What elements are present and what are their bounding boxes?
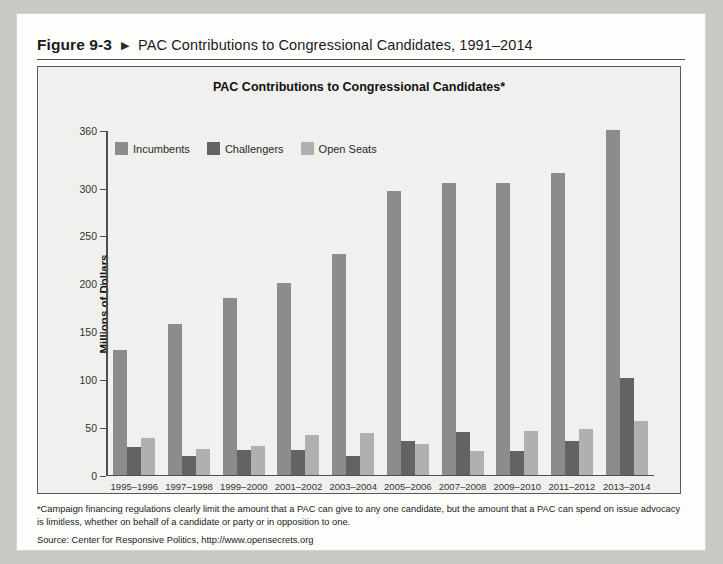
- bar-incumbents[interactable]: [496, 183, 510, 475]
- bar-group: 1995–1996: [107, 131, 162, 475]
- bar-challengers[interactable]: [127, 447, 141, 475]
- bar-group: 2001–2002: [271, 131, 326, 475]
- bar-challengers[interactable]: [237, 450, 251, 475]
- bar-incumbents[interactable]: [277, 283, 291, 475]
- bar-challengers[interactable]: [565, 441, 579, 475]
- header-divider: [37, 59, 685, 60]
- y-tick-label: 200: [79, 278, 97, 290]
- x-tick-label: 2003–2004: [329, 481, 377, 492]
- bar-incumbents[interactable]: [606, 130, 620, 475]
- y-tick-label: 250: [79, 230, 97, 242]
- figure-notes: *Campaign financing regulations clearly …: [37, 503, 687, 545]
- triangle-right-icon: ▶: [121, 40, 129, 51]
- bar-incumbents[interactable]: [223, 298, 237, 475]
- x-tick-label: 2007–2008: [439, 481, 487, 492]
- y-tick-mark: [100, 476, 106, 477]
- bar-challengers[interactable]: [510, 451, 524, 475]
- y-tick-mark: [100, 428, 106, 429]
- bar-open-seats[interactable]: [305, 435, 319, 475]
- bar-incumbents[interactable]: [113, 350, 127, 475]
- y-tick-mark: [100, 284, 106, 285]
- bar-group: 1999–2000: [216, 131, 271, 475]
- bar-open-seats[interactable]: [360, 433, 374, 475]
- bar-open-seats[interactable]: [579, 429, 593, 475]
- bar-open-seats[interactable]: [415, 444, 429, 475]
- bar-challengers[interactable]: [401, 441, 415, 476]
- bar-open-seats[interactable]: [634, 421, 648, 475]
- bar-challengers[interactable]: [456, 432, 470, 475]
- bar-challengers[interactable]: [182, 456, 196, 475]
- x-tick-label: 1995–1996: [111, 481, 159, 492]
- y-tick-mark: [100, 236, 106, 237]
- figure-page: Figure 9-3 ▶ PAC Contributions to Congre…: [17, 14, 705, 550]
- bar-group: 2013–2014: [599, 131, 654, 475]
- figure-header: Figure 9-3 ▶ PAC Contributions to Congre…: [37, 30, 677, 60]
- x-tick-label: 1999–2000: [220, 481, 268, 492]
- bar-open-seats[interactable]: [524, 431, 538, 475]
- x-tick-label: 1997–1998: [165, 481, 213, 492]
- bar-open-seats[interactable]: [251, 446, 265, 475]
- y-tick-label: 100: [79, 374, 97, 386]
- bar-group: 1997–1998: [162, 131, 217, 475]
- y-tick-label: 300: [79, 183, 97, 195]
- chart-title: PAC Contributions to Congressional Candi…: [38, 80, 680, 94]
- bar-group: 2007–2008: [435, 131, 490, 475]
- chart-container: PAC Contributions to Congressional Candi…: [37, 66, 681, 494]
- plot-area: Millions of Dollars 05010015020025030036…: [106, 131, 654, 476]
- x-tick-label: 2001–2002: [275, 481, 323, 492]
- bar-open-seats[interactable]: [196, 449, 210, 475]
- y-tick-mark: [100, 189, 106, 190]
- bar-challengers[interactable]: [620, 378, 634, 475]
- y-tick-mark: [100, 131, 106, 132]
- bar-open-seats[interactable]: [470, 451, 484, 475]
- x-tick-label: 2011–2012: [549, 481, 596, 492]
- y-tick-label: 150: [79, 326, 97, 338]
- bar-incumbents[interactable]: [387, 191, 401, 475]
- bar-group: 2003–2004: [326, 131, 381, 475]
- figure-title: PAC Contributions to Congressional Candi…: [138, 37, 533, 53]
- footnote-text: *Campaign financing regulations clearly …: [37, 503, 687, 528]
- bar-incumbents[interactable]: [442, 183, 456, 475]
- figure-number: Figure 9-3: [37, 36, 112, 54]
- bar-incumbents[interactable]: [168, 324, 182, 475]
- y-tick-label: 360: [79, 125, 97, 137]
- bar-incumbents[interactable]: [551, 173, 565, 475]
- source-text: Source: Center for Responsive Politics, …: [37, 535, 687, 545]
- bar-challengers[interactable]: [346, 456, 360, 475]
- bar-groups: 1995–19961997–19981999–20002001–20022003…: [107, 131, 654, 475]
- y-tick-mark: [100, 380, 106, 381]
- bar-incumbents[interactable]: [332, 254, 346, 475]
- x-tick-label: 2009–2010: [493, 481, 541, 492]
- y-tick-mark: [100, 332, 106, 333]
- x-tick-label: 2005–2006: [384, 481, 432, 492]
- bar-open-seats[interactable]: [141, 438, 155, 475]
- y-tick-label: 50: [85, 422, 97, 434]
- bar-group: 2011–2012: [545, 131, 600, 475]
- y-tick-label: 0: [91, 470, 97, 482]
- x-tick-label: 2013–2014: [603, 481, 651, 492]
- bar-group: 2005–2006: [381, 131, 436, 475]
- bar-group: 2009–2010: [490, 131, 545, 475]
- bar-challengers[interactable]: [291, 450, 305, 475]
